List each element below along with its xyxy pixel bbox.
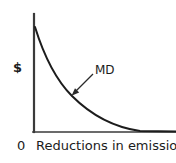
origin-label: 0 (17, 139, 25, 152)
marginal-damage-chart: $ 0 Reductions in emissions MD (0, 0, 176, 163)
md-curve (35, 27, 176, 132)
x-axis-label: Reductions in emissions (36, 139, 176, 152)
y-axis-label: $ (13, 61, 22, 74)
md-curve-label: MD (95, 64, 115, 76)
